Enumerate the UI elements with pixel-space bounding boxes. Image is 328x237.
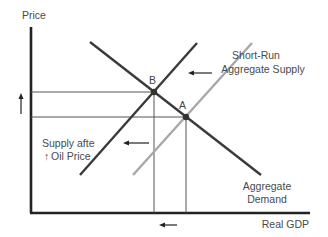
- shifted-supply-label-line1: Supply afte: [42, 137, 95, 149]
- point-a-label: A: [179, 99, 186, 111]
- arrow-left-icon: [159, 223, 177, 228]
- sras-label-line2: Aggregate Supply: [221, 63, 305, 75]
- arrow-left-icon: [123, 141, 149, 146]
- aggregate-supply-demand-diagram: B A Price Real GDP Short-Run Aggregate S…: [0, 0, 328, 237]
- ad-label-line1: Aggregate: [243, 180, 292, 192]
- equilibrium-point-a: [183, 114, 189, 120]
- sras-label-line1: Short-Run: [232, 49, 280, 61]
- shifted-supply-label-line2: Oil Price: [51, 150, 91, 162]
- ad-label-line2: Demand: [247, 193, 287, 205]
- y-axis-label: Price: [22, 9, 46, 21]
- arrow-up-icon: [19, 93, 24, 114]
- equilibrium-point-b: [151, 89, 157, 95]
- arrow-left-icon: [188, 71, 212, 76]
- up-arrow-glyph-icon: ↑: [44, 150, 49, 162]
- x-axis-label: Real GDP: [262, 218, 309, 230]
- point-b-label: B: [149, 74, 156, 86]
